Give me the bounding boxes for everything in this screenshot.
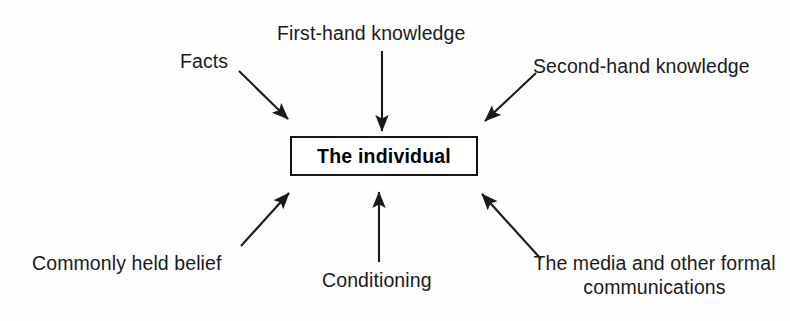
central-node-box: The individual bbox=[290, 136, 478, 176]
arrow-facts bbox=[239, 71, 288, 119]
source-label-conditioning: Conditioning bbox=[322, 269, 432, 293]
central-node-label: The individual bbox=[317, 145, 451, 168]
source-label-commonly-held-belief: Commonly held belief bbox=[32, 252, 222, 276]
source-label-facts: Facts bbox=[180, 50, 228, 74]
source-label-media-and-formal-communications: The media and other formal communication… bbox=[519, 252, 790, 300]
source-label-first-hand-knowledge: First-hand knowledge bbox=[277, 22, 465, 46]
arrow-media-and-formal-communications bbox=[482, 194, 541, 259]
arrow-commonly-held-belief bbox=[241, 193, 289, 246]
arrow-second-hand-knowledge bbox=[485, 73, 536, 121]
source-label-second-hand-knowledge: Second-hand knowledge bbox=[533, 55, 750, 79]
diagram-canvas: Facts First-hand knowledge Second-hand k… bbox=[0, 0, 790, 321]
